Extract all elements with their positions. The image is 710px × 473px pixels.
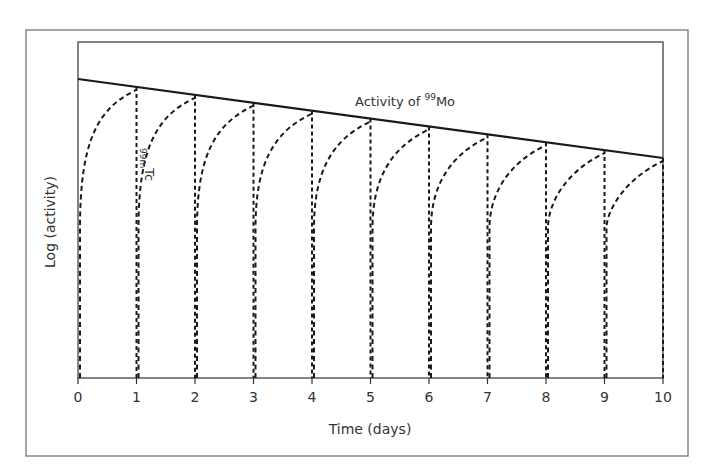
- x-axis-ticks: [78, 378, 663, 384]
- x-tick-label: 4: [308, 389, 317, 405]
- mo-annotation: Activity of 99Mo: [355, 92, 455, 109]
- tc-curve: [197, 106, 254, 378]
- tc-annotation: 99mTc: [138, 148, 157, 181]
- x-axis-title: Time (days): [328, 421, 412, 437]
- tc-curve: [256, 114, 313, 378]
- decay-chart: 012345678910 Time (days) Log (activity) …: [0, 0, 710, 473]
- mo-label-sup: 99: [424, 92, 436, 102]
- tc-curve: [314, 122, 371, 379]
- y-axis-title: Log (activity): [42, 176, 58, 268]
- x-tick-label: 2: [191, 389, 200, 405]
- x-tick-label: 9: [600, 389, 609, 405]
- x-tick-label: 8: [542, 389, 551, 405]
- tc-curve: [431, 137, 488, 378]
- mo-label-prefix: Activity of: [355, 94, 424, 109]
- x-tick-label: 5: [366, 389, 375, 405]
- tc-curve: [490, 145, 547, 378]
- tc-curve: [139, 98, 196, 378]
- x-tick-label: 7: [483, 389, 492, 405]
- x-tick-label: 3: [249, 389, 258, 405]
- tc-label-sup: 99m: [138, 148, 148, 168]
- mo-label-suffix: Mo: [436, 94, 455, 109]
- tc-curve: [373, 129, 430, 378]
- tc-curve: [607, 161, 664, 378]
- x-tick-label: 6: [425, 389, 434, 405]
- tc-curve: [80, 90, 137, 378]
- tc-curve: [548, 153, 605, 378]
- tc-label-suffix: Tc: [142, 167, 157, 181]
- x-tick-label: 10: [654, 389, 672, 405]
- x-axis-tick-labels: 012345678910: [74, 389, 672, 405]
- x-tick-label: 1: [132, 389, 141, 405]
- x-tick-label: 0: [74, 389, 83, 405]
- tc-ingrowth-curves: [80, 87, 663, 378]
